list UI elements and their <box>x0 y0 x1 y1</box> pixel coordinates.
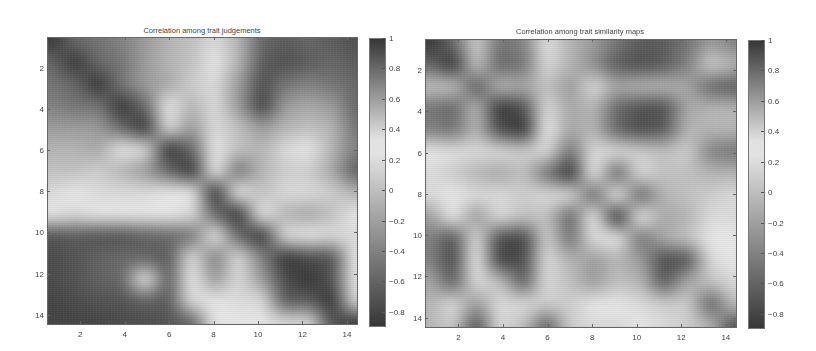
x-tick-label: 14 <box>721 333 730 342</box>
colorbar-tick-label: 0.8 <box>765 66 779 75</box>
colorbar-tick-mark <box>761 70 764 71</box>
x-tick-mark <box>681 324 682 327</box>
heatmap-panel-right: Correlation among trait similarity maps … <box>0 0 816 351</box>
y-tick-label: 4 <box>418 107 425 116</box>
colorbar-tick-mark <box>761 101 764 102</box>
colorbar-tick-mark <box>761 253 764 254</box>
colorbar-tick-mark <box>761 192 764 193</box>
colorbar-tick-label: −0.6 <box>765 279 784 288</box>
x-tick-label: 6 <box>545 333 549 342</box>
y-tick-label: 14 <box>413 313 425 322</box>
noise-overlay <box>426 40 736 327</box>
colorbar-tick-mark <box>761 314 764 315</box>
colorbar-tick-mark <box>761 162 764 163</box>
x-tick-mark <box>681 39 682 42</box>
y-tick-mark <box>425 153 428 154</box>
colorbar-tick-label: 0.6 <box>765 96 779 105</box>
y-tick-mark <box>425 235 428 236</box>
colorbar-tick-mark <box>761 223 764 224</box>
y-tick-mark <box>733 318 736 319</box>
y-tick-label: 10 <box>413 231 425 240</box>
y-tick-label: 12 <box>413 272 425 281</box>
y-tick-mark <box>733 276 736 277</box>
y-tick-mark <box>733 70 736 71</box>
y-tick-label: 2 <box>418 65 425 74</box>
x-tick-mark <box>503 324 504 327</box>
colorbar-tick-label: 1 <box>765 36 772 45</box>
chart-title: Correlation among trait similarity maps <box>516 27 644 36</box>
colorbar-tick-mark <box>761 283 764 284</box>
y-tick-mark <box>733 111 736 112</box>
x-tick-mark <box>592 39 593 42</box>
colorbar-tick-label: 0 <box>765 188 772 197</box>
x-tick-mark <box>592 324 593 327</box>
y-tick-mark <box>425 276 428 277</box>
colorbar-tick-label: −0.8 <box>765 309 784 318</box>
x-tick-label: 4 <box>501 333 505 342</box>
x-tick-mark <box>503 39 504 42</box>
y-tick-mark <box>425 194 428 195</box>
x-tick-mark <box>637 324 638 327</box>
x-tick-mark <box>726 39 727 42</box>
y-tick-mark <box>733 194 736 195</box>
colorbar-tick-label: 0.2 <box>765 157 779 166</box>
y-tick-label: 8 <box>418 189 425 198</box>
colorbar <box>748 40 765 329</box>
x-tick-label: 8 <box>590 333 594 342</box>
x-tick-label: 12 <box>677 333 686 342</box>
x-tick-mark <box>726 324 727 327</box>
x-tick-mark <box>637 39 638 42</box>
y-tick-mark <box>425 70 428 71</box>
y-tick-mark <box>425 318 428 319</box>
heatmap-axes <box>425 39 737 328</box>
y-tick-mark <box>425 111 428 112</box>
x-tick-mark <box>458 39 459 42</box>
colorbar-tick-mark <box>761 40 764 41</box>
y-tick-label: 6 <box>418 148 425 157</box>
colorbar-tick-label: −0.2 <box>765 218 784 227</box>
x-tick-label: 2 <box>456 333 460 342</box>
colorbar-tick-label: 0.4 <box>765 127 779 136</box>
y-tick-mark <box>733 153 736 154</box>
x-tick-mark <box>458 324 459 327</box>
x-tick-mark <box>548 39 549 42</box>
colorbar-tick-label: −0.4 <box>765 248 784 257</box>
x-tick-mark <box>548 324 549 327</box>
y-tick-mark <box>733 235 736 236</box>
x-tick-label: 10 <box>632 333 641 342</box>
colorbar-tick-mark <box>761 131 764 132</box>
